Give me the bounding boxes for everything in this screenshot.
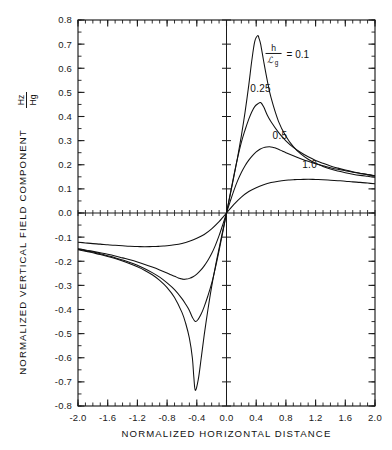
- curve-label-10: 1.0: [302, 159, 317, 170]
- y-axis-symbol-denominator: Hg: [28, 94, 38, 105]
- x-tick-label: 0.8: [279, 412, 293, 423]
- legend-value: = 0.1: [287, 49, 310, 60]
- y-tick-label: -0.5: [55, 328, 72, 339]
- x-tick-label: -2.0: [69, 412, 86, 423]
- x-tick-label: 1.6: [338, 412, 352, 423]
- y-tick-label: -0.8: [55, 400, 72, 411]
- y-tick-label: 0.8: [58, 14, 72, 25]
- y-tick-label: -0.6: [55, 352, 72, 363]
- legend-numerator: h: [271, 43, 276, 53]
- curve-label-025: 0.25: [250, 83, 271, 94]
- y-tick-label: 0.3: [58, 135, 72, 146]
- y-tick-label: 0.0: [58, 207, 72, 218]
- chart-figure: -2.0-1.6-1.2-0.8-0.40.00.40.81.21.62.00.…: [0, 0, 392, 450]
- y-tick-label: -0.7: [55, 376, 72, 387]
- y-axis-symbol-numerator: Hz: [16, 95, 26, 106]
- x-tick-label: -1.6: [99, 412, 116, 423]
- y-tick-label: 0.7: [58, 39, 72, 50]
- y-tick-label: -0.4: [55, 304, 72, 315]
- x-axis-title: NORMALIZED HORIZONTAL DISTANCE: [122, 428, 332, 439]
- y-tick-label: -0.1: [55, 232, 72, 243]
- y-tick-label: 0.2: [58, 159, 72, 170]
- x-tick-label: 0.0: [220, 412, 234, 423]
- x-tick-label: 2.0: [368, 412, 382, 423]
- x-tick-label: 0.4: [249, 412, 263, 423]
- x-tick-label: -1.2: [129, 412, 146, 423]
- x-tick-label: 1.2: [309, 412, 323, 423]
- y-tick-label: 0.1: [58, 183, 72, 194]
- y-tick-label: -0.3: [55, 280, 72, 291]
- legend-denominator-L: ℒ: [267, 55, 274, 65]
- legend-denominator-sub: g: [275, 59, 279, 67]
- y-axis-title: NORMALIZED VERTICAL FIELD COMPONENT: [17, 129, 28, 374]
- y-tick-label: -0.2: [55, 256, 72, 267]
- y-tick-label: 0.4: [58, 111, 72, 122]
- x-tick-label: -0.4: [188, 412, 205, 423]
- curve-label-05: 0.5: [273, 130, 288, 141]
- y-tick-label: 0.6: [58, 63, 72, 74]
- y-tick-label: 0.5: [58, 87, 72, 98]
- x-tick-label: -0.8: [159, 412, 176, 423]
